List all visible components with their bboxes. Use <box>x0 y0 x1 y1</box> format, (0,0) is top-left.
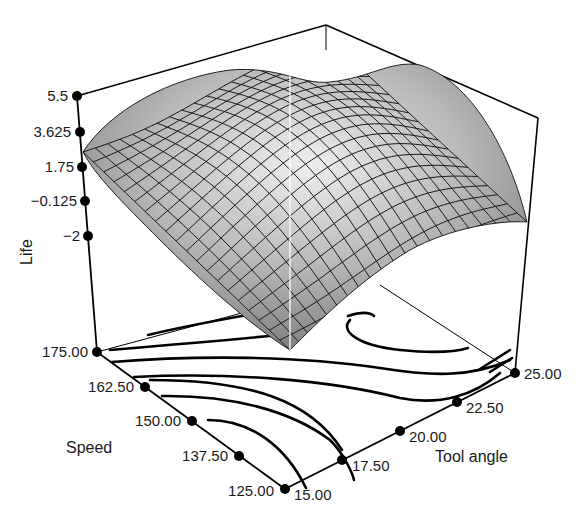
surface-plot: 5.5 3.625 1.75 −0.125 −2 Life 175.00 162… <box>0 0 584 516</box>
speed-tick-label: 137.50 <box>182 447 228 464</box>
z-tick-labels: 5.5 3.625 1.75 −0.125 −2 <box>31 87 80 244</box>
tool-angle-tick-label: 15.00 <box>294 486 332 503</box>
z-tick-label: 3.625 <box>33 123 71 140</box>
speed-tick-label: 162.50 <box>88 378 134 395</box>
z-tick-label: 1.75 <box>45 158 74 175</box>
speed-axis-title: Speed <box>66 439 112 456</box>
tool-angle-tick-label: 25.00 <box>524 365 562 382</box>
tool-angle-tick-label: 22.50 <box>466 399 504 416</box>
response-surface <box>83 40 527 350</box>
speed-tick-label: 125.00 <box>228 482 274 499</box>
speed-tick-label: 175.00 <box>42 343 88 360</box>
z-tick-label: −0.125 <box>31 192 77 209</box>
z-tick-label: 5.5 <box>47 87 68 104</box>
tool-angle-tick-label: 17.50 <box>352 457 390 474</box>
z-axis-title: Life <box>18 239 35 265</box>
tool-angle-tick-label: 20.00 <box>409 428 447 445</box>
tool-angle-axis-title: Tool angle <box>435 448 508 465</box>
speed-tick-labels: 175.00 162.50 150.00 137.50 125.00 <box>42 343 274 499</box>
speed-tick-label: 150.00 <box>135 412 181 429</box>
z-tick-label: −2 <box>63 227 80 244</box>
